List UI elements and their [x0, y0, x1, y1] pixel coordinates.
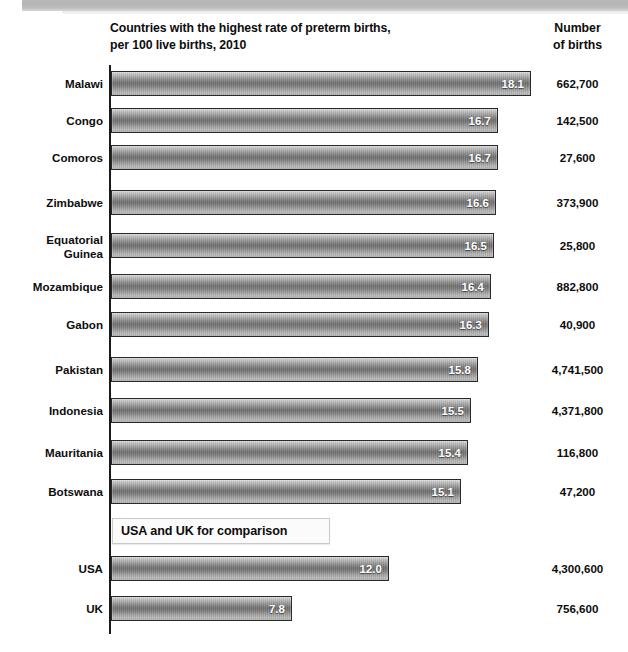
bar: 16.7 — [111, 145, 498, 170]
number-of-births-value: 4,371,800 — [527, 404, 628, 417]
bar-value-label: 18.1 — [502, 78, 524, 90]
bar-value-label: 16.7 — [469, 115, 491, 127]
bar: 16.3 — [111, 312, 489, 337]
bar: 16.6 — [111, 190, 496, 215]
comparison-callout-label: USA and UK for comparison — [121, 524, 287, 538]
bar-category-label: Mauritania — [0, 446, 103, 460]
number-of-births-value: 47,200 — [527, 485, 628, 498]
bar-value-label: 15.5 — [442, 405, 464, 417]
bar-value-label: 16.3 — [460, 319, 482, 331]
bar: 16.4 — [111, 274, 491, 299]
number-of-births-value: 4,300,600 — [527, 562, 628, 575]
bar: 15.5 — [111, 398, 471, 423]
bar: 12.0 — [111, 556, 389, 581]
bar: 15.8 — [111, 357, 478, 382]
bar-category-label: Indonesia — [0, 404, 103, 418]
number-of-births-value: 756,600 — [527, 602, 628, 615]
bar: 15.4 — [111, 440, 468, 465]
bar-category-label: UK — [0, 602, 103, 616]
bar-category-label: Botswana — [0, 485, 103, 499]
bar-value-label: 15.4 — [439, 447, 461, 459]
bar-value-label: 16.5 — [465, 240, 487, 252]
number-of-births-value: 116,800 — [527, 446, 628, 459]
bar-category-label: Zimbabwe — [0, 196, 103, 210]
number-of-births-value: 373,900 — [527, 196, 628, 209]
bar-category-label: Congo — [0, 114, 103, 128]
number-of-births-value: 4,741,500 — [527, 363, 628, 376]
number-of-births-value: 882,800 — [527, 280, 628, 293]
bar: 16.5 — [111, 233, 494, 258]
bar-value-label: 16.7 — [469, 152, 491, 164]
comparison-callout: USA and UK for comparison — [112, 518, 330, 544]
bar-value-label: 15.8 — [449, 364, 471, 376]
number-of-births-value: 25,800 — [527, 239, 628, 252]
bar: 15.1 — [111, 479, 461, 504]
bar-category-label: USA — [0, 562, 103, 576]
bar-value-label: 16.6 — [467, 197, 489, 209]
bar-category-label: Pakistan — [0, 363, 103, 377]
bar-category-label: Equatorial Guinea — [0, 233, 103, 260]
bar-category-label: Comoros — [0, 151, 103, 165]
bar-chart: Malawi18.1662,700Congo16.7142,500Comoros… — [0, 0, 628, 652]
bar: 18.1 — [111, 71, 531, 96]
bar-category-label: Mozambique — [0, 280, 103, 294]
bar-value-label: 12.0 — [360, 563, 382, 575]
bar-value-label: 16.4 — [462, 281, 484, 293]
bar-value-label: 7.8 — [269, 603, 285, 615]
number-of-births-value: 27,600 — [527, 151, 628, 164]
bar: 7.8 — [111, 596, 292, 621]
number-of-births-value: 40,900 — [527, 318, 628, 331]
number-of-births-value: 662,700 — [527, 77, 628, 90]
bar-category-label: Gabon — [0, 318, 103, 332]
bar: 16.7 — [111, 108, 498, 133]
bar-category-label: Malawi — [0, 77, 103, 91]
bar-value-label: 15.1 — [432, 486, 454, 498]
number-of-births-value: 142,500 — [527, 114, 628, 127]
